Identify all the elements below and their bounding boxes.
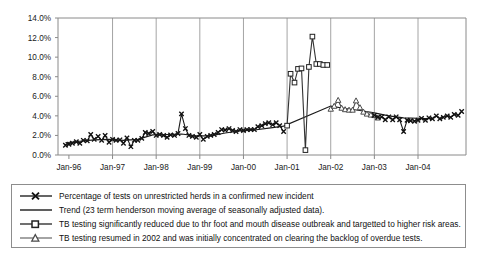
x-tick-labels-group: Jan-96Jan-97Jan-98Jan-99Jan-00Jan-01Jan-… bbox=[56, 163, 431, 172]
legend-item-tb-testing-reduced: TB testing significantly reduced due to … bbox=[19, 217, 465, 231]
data-point-marker-x bbox=[103, 133, 107, 137]
legend-label: TB testing significantly reduced due to … bbox=[59, 218, 461, 230]
data-point-marker-triangle bbox=[357, 105, 362, 110]
legend-item-trend: Trend (23 term henderson moving average … bbox=[19, 203, 465, 217]
y-tick-labels-group: 0.0%2.0%4.0%6.0%8.0%10.0%12.0%14.0% bbox=[28, 14, 51, 160]
series-3 bbox=[285, 34, 330, 152]
data-point-marker-x bbox=[89, 132, 93, 136]
legend-swatch-triangle-marker bbox=[19, 232, 53, 244]
y-tick-label: 12.0% bbox=[28, 34, 51, 43]
data-point-marker-square bbox=[307, 65, 312, 70]
legend-swatch-square-marker bbox=[19, 218, 53, 230]
x-tick-label: Jan-03 bbox=[362, 163, 387, 172]
x-tick-label: Jan-97 bbox=[100, 163, 125, 172]
legend-swatch-x-marker bbox=[19, 190, 53, 202]
x-tick-label: Jan-98 bbox=[144, 163, 169, 172]
legend-label: TB testing resumed in 2002 and was initi… bbox=[59, 232, 422, 244]
series-line bbox=[65, 106, 432, 143]
y-tick-label: 4.0% bbox=[32, 112, 51, 121]
data-point-marker-x bbox=[281, 129, 285, 133]
x-tick-label: Jan-04 bbox=[405, 163, 430, 172]
legend-label: Trend (23 term henderson moving average … bbox=[59, 204, 324, 216]
plot-area: 0.0%2.0%4.0%6.0%8.0%10.0%12.0%14.0% Jan-… bbox=[0, 0, 492, 178]
legend-item-percentage-tests: Percentage of tests on unrestricted herd… bbox=[19, 189, 465, 203]
chart-figure: 0.0%2.0%4.0%6.0%8.0%10.0%12.0%14.0% Jan-… bbox=[0, 0, 492, 260]
chart-legend: Percentage of tests on unrestricted herd… bbox=[11, 184, 466, 248]
data-point-marker-x bbox=[121, 141, 125, 145]
y-tick-label: 8.0% bbox=[32, 73, 51, 82]
x-tick-label: Jan-02 bbox=[318, 163, 343, 172]
data-point-marker-triangle bbox=[353, 98, 358, 103]
data-series-group bbox=[63, 34, 464, 152]
data-point-marker-triangle bbox=[335, 97, 340, 102]
series-2 bbox=[65, 106, 432, 143]
data-point-marker-x bbox=[129, 144, 133, 148]
data-point-marker-square bbox=[310, 34, 315, 39]
data-point-marker-square bbox=[288, 71, 293, 76]
x-tick-label: Jan-99 bbox=[187, 163, 212, 172]
legend-item-tb-testing-resumed: TB testing resumed in 2002 and was initi… bbox=[19, 231, 465, 245]
data-point-marker-square bbox=[303, 148, 308, 153]
chart-svg: 0.0%2.0%4.0%6.0%8.0%10.0%12.0%14.0% Jan-… bbox=[0, 0, 492, 178]
data-point-marker-triangle bbox=[350, 107, 355, 112]
y-tick-label: 6.0% bbox=[32, 92, 51, 101]
data-point-marker-square bbox=[325, 63, 330, 68]
x-tick-label: Jan-96 bbox=[56, 163, 81, 172]
data-point-marker-x bbox=[459, 109, 463, 113]
data-point-marker-square bbox=[299, 66, 304, 71]
legend-swatch-plain-line bbox=[19, 204, 53, 216]
x-tick-label: Jan-00 bbox=[231, 163, 256, 172]
y-tick-label: 0.0% bbox=[32, 151, 51, 160]
data-point-marker-x bbox=[99, 138, 103, 142]
x-tick-label: Jan-01 bbox=[275, 163, 300, 172]
y-tick-label: 10.0% bbox=[28, 53, 51, 62]
y-tick-label: 2.0% bbox=[32, 131, 51, 140]
axes-group bbox=[55, 18, 466, 159]
series-line bbox=[287, 37, 327, 151]
y-tick-label: 14.0% bbox=[28, 14, 51, 23]
data-point-marker-square bbox=[292, 80, 297, 85]
legend-label: Percentage of tests on unrestricted herd… bbox=[59, 190, 314, 202]
data-point-marker-square bbox=[285, 123, 290, 128]
data-point-marker-x bbox=[201, 137, 205, 141]
